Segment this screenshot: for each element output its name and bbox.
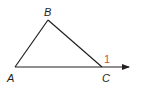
angle-label-1: 1 — [104, 53, 110, 65]
side-ab — [15, 20, 48, 67]
side-bc — [48, 20, 102, 67]
vertex-label-b: B — [44, 6, 51, 18]
vertex-label-a: A — [6, 72, 14, 84]
triangle-diagram: B A C 1 — [0, 0, 141, 88]
vertex-label-c: C — [102, 72, 110, 84]
